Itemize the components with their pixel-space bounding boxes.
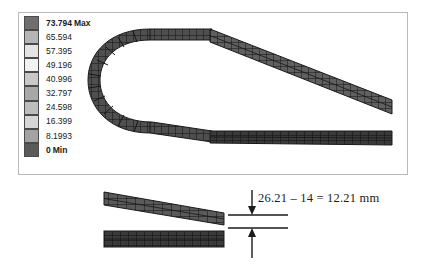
- u-bend-mesh: [80, 20, 230, 155]
- screenshot-root: 73.794Max 65.594 57.395 49.196 40.996 32: [0, 0, 423, 280]
- arrow-down-icon: [248, 206, 256, 215]
- detail-undeformed-beam: [100, 228, 230, 252]
- lower-arm-mesh: [200, 125, 410, 155]
- arrow-up-icon: [248, 228, 256, 237]
- dimension-value-text: 26.21 – 14 = 12.21 mm: [258, 191, 379, 206]
- upper-arm-mesh: [200, 20, 410, 130]
- mesh-geometry-layer: [0, 0, 423, 280]
